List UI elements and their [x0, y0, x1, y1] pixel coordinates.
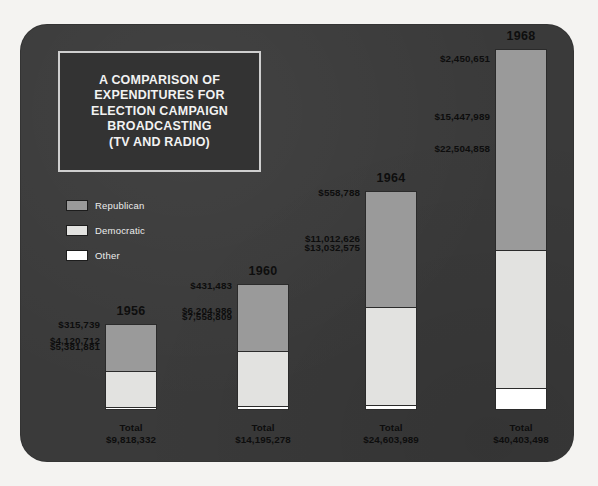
legend-swatch-other [66, 250, 88, 261]
total-caption: Total [235, 422, 291, 434]
total-caption: Total [493, 422, 549, 434]
legend-label-other: Other [95, 250, 120, 261]
legend-item-other: Other [66, 243, 145, 268]
total-value: $40,403,498 [493, 434, 549, 446]
legend-item-democratic: Democratic [66, 218, 145, 243]
bar-segment-republican-1956[interactable]: $5,381,881 [105, 324, 157, 372]
bar-segment-other-1956[interactable]: $315,739 [105, 407, 157, 410]
total-value: $24,603,989 [363, 434, 419, 446]
bar-segment-democratic-1968[interactable]: $15,447,989 [495, 250, 547, 389]
bar-segment-republican-1968[interactable]: $22,504,858 [495, 49, 547, 251]
bar-segment-democratic-1964[interactable]: $11,012,626 [365, 307, 417, 406]
total-caption: Total [106, 422, 156, 434]
poster-background: A COMPARISON OF EXPENDITURES FOR ELECTIO… [0, 0, 598, 486]
total-label-1964: Total$24,603,989 [363, 422, 419, 446]
bar-stack: $22,504,858$15,447,989$2,450,651 [495, 49, 547, 412]
bar-segment-other-1964[interactable]: $558,788 [365, 405, 417, 410]
bar-stack: $13,032,575$11,012,626$558,788 [365, 191, 417, 412]
bar-value-label-democratic-1960: $6,204,986 [182, 305, 232, 316]
year-label-1960: 1960 [248, 264, 277, 278]
bar-segment-democratic-1960[interactable]: $6,204,986 [237, 351, 289, 407]
chart-panel: A COMPARISON OF EXPENDITURES FOR ELECTIO… [21, 25, 573, 461]
bar-group-1956: $5,381,881$4,120,712$315,7391956Total$9,… [105, 324, 157, 412]
legend-swatch-democratic [66, 225, 88, 236]
bar-group-1964: $13,032,575$11,012,626$558,7881964Total$… [365, 191, 417, 412]
year-label-1956: 1956 [116, 304, 145, 318]
year-label-1968: 1968 [506, 29, 535, 43]
total-value: $14,195,278 [235, 434, 291, 446]
bar-value-label-other-1956: $315,739 [58, 319, 100, 330]
total-label-1956: Total$9,818,332 [106, 422, 156, 446]
legend-item-republican: Republican [66, 193, 145, 218]
bar-value-label-other-1960: $431,483 [190, 280, 232, 291]
bar-value-label-democratic-1968: $15,447,989 [434, 111, 490, 122]
bar-segment-republican-1964[interactable]: $13,032,575 [365, 191, 417, 308]
total-caption: Total [363, 422, 419, 434]
bar-stack: $5,381,881$4,120,712$315,739 [105, 324, 157, 412]
bar-stack: $7,558,809$6,204,986$431,483 [237, 284, 289, 412]
total-label-1968: Total$40,403,498 [493, 422, 549, 446]
bar-segment-other-1968[interactable]: $2,450,651 [495, 388, 547, 410]
chart-title-box: A COMPARISON OF EXPENDITURES FOR ELECTIO… [58, 51, 261, 172]
bar-segment-other-1960[interactable]: $431,483 [237, 406, 289, 410]
bar-value-label-other-1964: $558,788 [318, 187, 360, 198]
legend-label-republican: Republican [95, 200, 145, 211]
bar-value-label-republican-1968: $22,504,858 [434, 143, 490, 154]
legend: Republican Democratic Other [66, 193, 145, 268]
total-value: $9,818,332 [106, 434, 156, 446]
year-label-1964: 1964 [376, 171, 405, 185]
bar-segment-republican-1960[interactable]: $7,558,809 [237, 284, 289, 352]
bar-segment-democratic-1956[interactable]: $4,120,712 [105, 371, 157, 408]
page-title: A COMPARISON OF EXPENDITURES FOR ELECTIO… [91, 73, 228, 151]
total-label-1960: Total$14,195,278 [235, 422, 291, 446]
bar-value-label-democratic-1956: $4,120,712 [50, 335, 100, 346]
bar-group-1968: $22,504,858$15,447,989$2,450,6511968Tota… [495, 49, 547, 412]
bar-value-label-other-1968: $2,450,651 [440, 53, 490, 64]
bar-value-label-democratic-1964: $11,012,626 [305, 233, 360, 244]
legend-swatch-republican [66, 200, 88, 211]
legend-label-democratic: Democratic [95, 225, 145, 236]
bar-group-1960: $7,558,809$6,204,986$431,4831960Total$14… [237, 284, 289, 412]
